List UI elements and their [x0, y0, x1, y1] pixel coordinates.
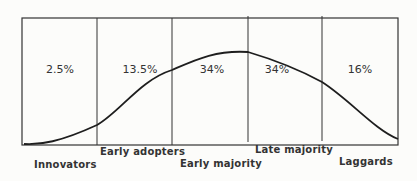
- share-late-majority: 34%: [265, 63, 289, 76]
- label-laggards: Laggards: [339, 156, 393, 167]
- label-late-majority: Late majority: [255, 144, 333, 155]
- frame: [22, 18, 398, 145]
- label-innovators: Innovators: [34, 159, 97, 170]
- share-early-adopters: 13.5%: [123, 63, 158, 76]
- share-laggards: 16%: [348, 63, 372, 76]
- adoption-curve-diagram: 2.5% 13.5% 34% 34% 16% Innovators Early …: [0, 0, 417, 181]
- label-early-adopters: Early adopters: [100, 146, 185, 157]
- share-early-majority: 34%: [200, 63, 224, 76]
- label-early-majority: Early majority: [180, 158, 262, 169]
- share-innovators: 2.5%: [46, 63, 74, 76]
